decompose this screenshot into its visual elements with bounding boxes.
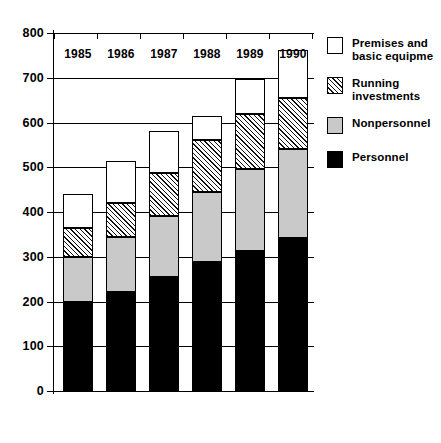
- gridline-700: [54, 78, 314, 79]
- legend-label-premises: Premises and basic equipme: [352, 37, 433, 62]
- y-tick-0: [47, 391, 54, 392]
- plot-area: 0100200300400500600700800 19851986198719…: [54, 33, 314, 391]
- x-tick-0: [54, 33, 55, 39]
- gridline-500: [54, 167, 314, 168]
- bar-segment-personnel-1986: [106, 292, 136, 391]
- y-axis-label-400: 400: [23, 205, 44, 219]
- bar-segment-nonpersonnel-1990: [278, 149, 308, 237]
- legend-item-premises: Premises and basic equipme: [327, 37, 433, 62]
- legend-label-running: Running investments: [352, 77, 420, 102]
- bar-1988: [192, 33, 222, 391]
- bar-segment-nonpersonnel-1989: [235, 169, 265, 251]
- y-tick-700: [47, 78, 54, 79]
- x-axis-label-1986: 1986: [107, 47, 135, 61]
- y-tick-200: [47, 302, 54, 303]
- legend-item-personnel: Personnel: [327, 151, 409, 168]
- x-tick-3: [183, 33, 184, 39]
- bar-segment-premises-1985: [63, 194, 93, 228]
- bar-segment-premises-1987: [149, 131, 179, 173]
- legend-item-running: Running investments: [327, 77, 420, 102]
- x-tick-5: [269, 33, 270, 39]
- legend-swatch-premises: [327, 37, 343, 54]
- legend-swatch-nonpersonnel: [327, 117, 343, 134]
- y-tick-800: [47, 33, 54, 34]
- bar-segment-premises-1986: [106, 161, 136, 203]
- legend-label-personnel: Personnel: [352, 151, 409, 164]
- stacked-bar-chart: 0100200300400500600700800 19851986198719…: [0, 0, 441, 443]
- gridline-800: [54, 33, 314, 34]
- y-axis-label-800: 800: [23, 26, 44, 40]
- bar-segment-personnel-1987: [149, 277, 179, 391]
- x-tick-1: [97, 33, 98, 39]
- x-tick-2: [140, 33, 141, 39]
- y-axis-label-600: 600: [23, 116, 44, 130]
- bar-segment-personnel-1988: [192, 262, 222, 391]
- bar-segment-personnel-1985: [63, 302, 93, 391]
- y-axis-label-100: 100: [23, 339, 44, 353]
- bar-1989: [235, 33, 265, 391]
- bar-segment-running-1986: [106, 203, 136, 237]
- bar-segment-nonpersonnel-1987: [149, 216, 179, 276]
- bar-segment-premises-1989: [235, 79, 265, 114]
- legend-swatch-running: [327, 77, 343, 94]
- bar-segment-nonpersonnel-1986: [106, 237, 136, 292]
- x-tick-4: [226, 33, 227, 39]
- x-axis-label-1988: 1988: [193, 47, 221, 61]
- bar-segment-premises-1988: [192, 116, 222, 141]
- gridline-100: [54, 346, 314, 347]
- bar-segment-running-1988: [192, 140, 222, 192]
- bar-1987: [149, 33, 179, 391]
- bar-1985: [63, 33, 93, 391]
- legend-item-nonpersonnel: Nonpersonnel: [327, 117, 431, 134]
- bar-segment-personnel-1990: [278, 238, 308, 391]
- bar-segment-running-1990: [278, 98, 308, 149]
- y-axis-label-0: 0: [37, 384, 44, 398]
- y-tick-300: [47, 257, 54, 258]
- y-tick-400: [47, 212, 54, 213]
- bar-segment-nonpersonnel-1985: [63, 257, 93, 302]
- bar-segment-running-1987: [149, 173, 179, 216]
- gridline-600: [54, 123, 314, 124]
- x-axis-line: [54, 391, 314, 392]
- gridline-300: [54, 257, 314, 258]
- x-axis-label-1989: 1989: [236, 47, 264, 61]
- y-tick-600: [47, 123, 54, 124]
- bar-1986: [106, 33, 136, 391]
- y-axis-label-500: 500: [23, 160, 44, 174]
- x-axis-label-1990: 1990: [279, 47, 307, 61]
- x-axis-label-1985: 1985: [64, 47, 92, 61]
- y-axis-label-200: 200: [23, 295, 44, 309]
- bar-segment-nonpersonnel-1988: [192, 192, 222, 261]
- y-tick-100: [47, 346, 54, 347]
- legend-swatch-personnel: [327, 151, 343, 168]
- x-axis-label-1987: 1987: [150, 47, 178, 61]
- x-tick-6: [312, 33, 313, 39]
- bar-segment-running-1989: [235, 114, 265, 169]
- y-tick-500: [47, 167, 54, 168]
- y-axis-label-700: 700: [23, 71, 44, 85]
- y-axis-label-300: 300: [23, 250, 44, 264]
- bar-segment-personnel-1989: [235, 251, 265, 391]
- gridline-200: [54, 302, 314, 303]
- gridline-400: [54, 212, 314, 213]
- bar-segment-running-1985: [63, 228, 93, 258]
- legend-label-nonpersonnel: Nonpersonnel: [352, 117, 431, 130]
- bar-1990: [278, 33, 308, 391]
